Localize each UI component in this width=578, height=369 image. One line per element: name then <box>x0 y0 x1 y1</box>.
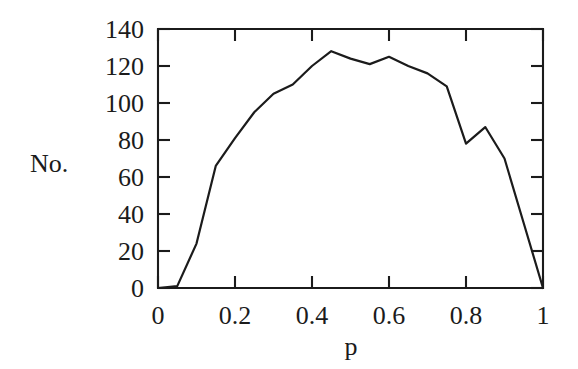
y-tick-label: 120 <box>105 52 144 81</box>
y-tick-label: 0 <box>131 274 144 303</box>
y-axis-title: No. <box>30 149 68 178</box>
x-tick-label: 0.8 <box>450 301 483 330</box>
y-tick-label: 140 <box>105 15 144 44</box>
x-tick-label: 0.2 <box>219 301 252 330</box>
line-chart: No. p 020406080100120140 00.20.40.60.81 <box>0 0 578 369</box>
x-axis-title: p <box>345 332 358 361</box>
data-series-line <box>158 51 543 288</box>
y-axis-tick-labels: 020406080100120140 <box>105 15 144 303</box>
x-tick-label: 0 <box>152 301 165 330</box>
y-axis-ticks <box>158 29 543 288</box>
x-axis-tick-labels: 00.20.40.60.81 <box>152 301 550 330</box>
y-tick-label: 60 <box>118 163 144 192</box>
x-tick-label: 0.6 <box>373 301 406 330</box>
y-tick-label: 100 <box>105 89 144 118</box>
x-axis-ticks <box>158 29 543 288</box>
y-tick-label: 80 <box>118 126 144 155</box>
plot-frame <box>158 29 543 288</box>
x-tick-label: 0.4 <box>296 301 329 330</box>
y-tick-label: 40 <box>118 200 144 229</box>
chart-figure: No. p 020406080100120140 00.20.40.60.81 <box>0 0 578 369</box>
y-tick-label: 20 <box>118 237 144 266</box>
x-tick-label: 1 <box>537 301 550 330</box>
